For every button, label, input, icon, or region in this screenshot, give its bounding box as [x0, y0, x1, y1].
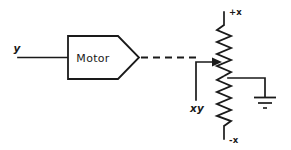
rail-negative-label: -x [229, 135, 239, 145]
output-signal-label: xy [189, 102, 205, 114]
schematic-canvas: y Motor xy +x -x [0, 0, 291, 150]
motor-block-label: Motor [76, 52, 109, 65]
pot-zigzag-upper [217, 25, 231, 76]
schematic-diagram: y Motor xy +x -x [0, 0, 291, 150]
ground-tap-wire [228, 78, 265, 97]
input-signal-label: y [13, 42, 21, 54]
wiper-arrow-line [196, 62, 213, 100]
pot-zigzag-lower [217, 76, 231, 126]
rail-positive-label: +x [229, 7, 242, 17]
